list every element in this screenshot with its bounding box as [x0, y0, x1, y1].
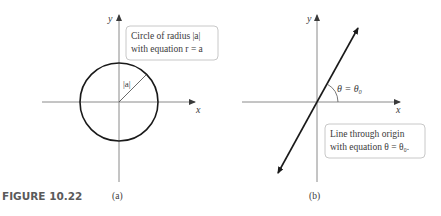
x-axis-label-a: x: [195, 104, 201, 115]
radius-label: |a|: [123, 79, 131, 89]
y-axis-label-b: y: [306, 13, 312, 24]
figure-canvas: |a| y x Circle of radius |a| with equati…: [0, 0, 441, 216]
callout-a-line1: Circle of radius |a|: [131, 31, 201, 41]
line-through-origin-neg: [278, 102, 317, 173]
figure-label: FIGURE 10.22: [2, 190, 82, 202]
callout-b-line1: Line through origin: [330, 129, 405, 139]
panel-b: θ = θ₀ y x Line through origin with equa…: [242, 13, 425, 202]
callout-b-line2: with equation θ = θ₀.: [330, 142, 409, 152]
panel-a: |a| y x Circle of radius |a| with equati…: [42, 13, 218, 202]
sublabel-b: (b): [309, 191, 320, 202]
sublabel-a: (a): [112, 191, 123, 202]
x-axis-label-b: x: [395, 104, 401, 115]
callout-a-line2: with equation r = a: [131, 44, 204, 54]
angle-label: θ = θ₀: [337, 83, 363, 94]
y-axis-label-a: y: [107, 13, 113, 24]
